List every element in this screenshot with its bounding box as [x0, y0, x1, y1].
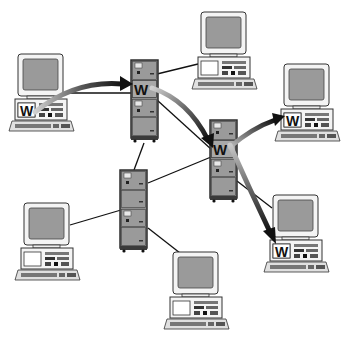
- flow-srv1-srv2: [152, 88, 214, 148]
- link-pc2-srv1: [157, 64, 198, 74]
- workstation-pc3: W: [275, 64, 340, 141]
- doc-label: W: [213, 141, 228, 158]
- workstation-pc2: [192, 12, 257, 89]
- server-srv2: W: [210, 120, 237, 203]
- doc-label: W: [134, 81, 149, 98]
- link-srv3-pc5: [70, 210, 121, 225]
- network-diagram: W W W W W: [0, 0, 347, 338]
- flow-srv2-pc3: [230, 113, 285, 147]
- workstation-pc5: [15, 203, 80, 280]
- server-srv1: W: [131, 60, 158, 143]
- workstation-pc6: [164, 252, 229, 329]
- doc-label: W: [275, 244, 289, 260]
- server-srv3: [120, 170, 147, 253]
- doc-label: W: [286, 113, 300, 129]
- flow-arrows: [35, 76, 285, 244]
- network-links: [66, 64, 272, 253]
- link-srv3-pc6: [148, 228, 180, 253]
- link-srv3-srv2: [148, 157, 211, 183]
- link-srv1-srv3: [134, 143, 144, 170]
- doc-label: W: [20, 103, 34, 119]
